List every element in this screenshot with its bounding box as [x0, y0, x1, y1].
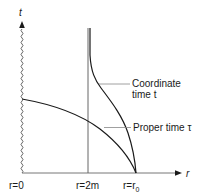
singularity-wavy-axis	[21, 29, 23, 173]
coordinate-time-label-line2: time t	[132, 89, 156, 100]
tick-label-r0: r=0	[9, 180, 24, 191]
proper-time-label: Proper time τ	[133, 122, 191, 133]
diagram-graphics	[0, 0, 197, 196]
r-axis-arrowhead	[175, 170, 182, 175]
coordinate-time-label-line1: Coordinate	[132, 78, 181, 89]
proper-time-curve	[22, 99, 136, 173]
coordinate-time-curve	[90, 28, 136, 173]
tick-label-r2m: r=2m	[76, 180, 99, 191]
diagram: t r r=0 r=2m r=r0 Coordinate time t Prop…	[0, 0, 197, 196]
t-axis-arrowhead	[19, 21, 25, 28]
tick-label-rr0-sub: 0	[136, 186, 140, 193]
tick-label-rr0: r=r0	[123, 180, 139, 195]
tick-label-rr0-main: r=r	[123, 180, 136, 191]
t-axis-label: t	[19, 7, 22, 18]
r-axis-label: r	[186, 168, 189, 179]
